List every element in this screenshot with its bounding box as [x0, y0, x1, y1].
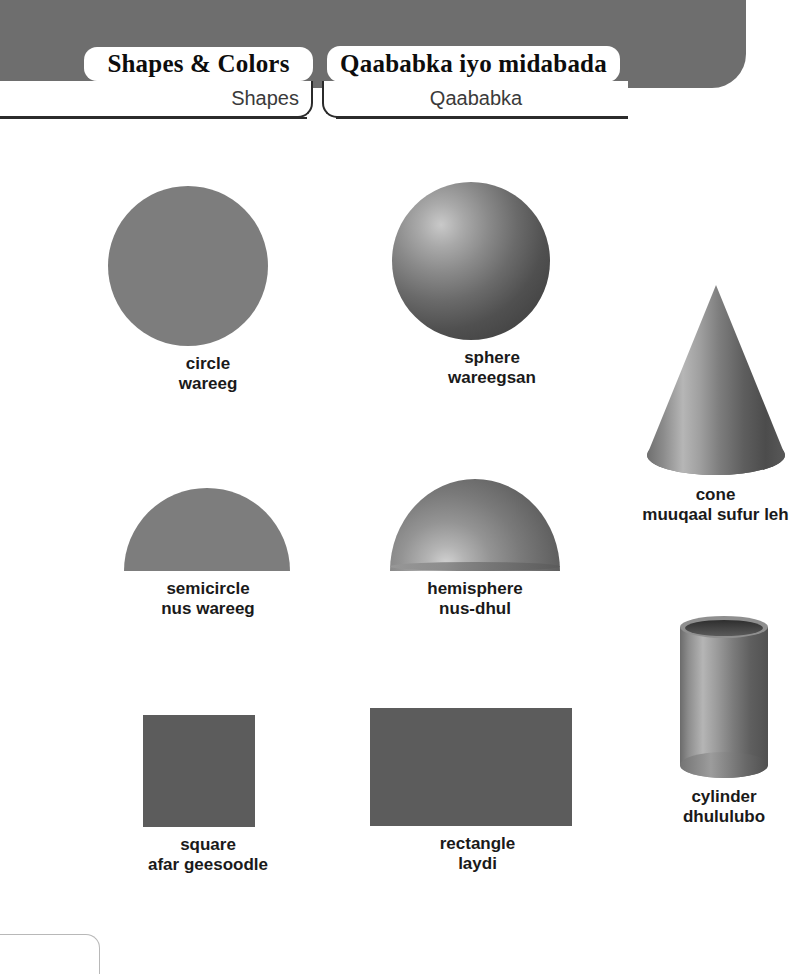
semicircle-label-so: nus wareeg [124, 599, 292, 619]
square-labels: square afar geesoodle [143, 835, 273, 875]
semicircle-shape [124, 488, 290, 571]
rectangle-shape [370, 708, 572, 826]
rectangle-labels: rectangle laydi [370, 834, 585, 874]
tab-bar: Shapes & Colors Shapes Qaababka iyo mida… [0, 0, 803, 130]
tab-qaababka-underline [336, 117, 628, 119]
square-shape [143, 715, 255, 827]
hemisphere-base-ellipse [390, 562, 560, 571]
rectangle-label-en: rectangle [370, 834, 585, 854]
cone-shape [645, 283, 787, 477]
shape-cell-cone: cone muuqaal sufur leh [628, 283, 803, 525]
cylinder-shape [678, 615, 770, 779]
hemisphere-art [390, 479, 560, 571]
hemisphere-label-en: hemisphere [382, 579, 568, 599]
semicircle-label-en: semicircle [124, 579, 292, 599]
square-label-en: square [143, 835, 273, 855]
cone-label-so: muuqaal sufur leh [628, 505, 803, 525]
cylinder-label-en: cylinder [644, 787, 803, 807]
square-art [143, 715, 273, 827]
hemisphere-labels: hemisphere nus-dhul [382, 579, 568, 619]
circle-label-so: wareeg [108, 374, 308, 394]
tab-qaababka-subtitle-box[interactable]: Qaababka [322, 81, 628, 118]
square-label-so: afar geesoodle [143, 855, 273, 875]
footer-tab-outline [0, 934, 100, 974]
circle-labels: circle wareeg [108, 354, 308, 394]
tab-shapes-colors-subtitle: Shapes [231, 87, 299, 110]
cone-labels: cone muuqaal sufur leh [628, 485, 803, 525]
tab-qaababka-title-box[interactable]: Qaababka iyo midabada [327, 46, 620, 82]
shape-cell-hemisphere: hemisphere nus-dhul [382, 479, 568, 619]
shape-cell-semicircle: semicircle nus wareeg [124, 488, 292, 619]
rectangle-art [370, 708, 585, 826]
circle-art [108, 186, 308, 346]
hemisphere-label-so: nus-dhul [382, 599, 568, 619]
sphere-label-so: wareegsan [392, 368, 592, 388]
sphere-art [392, 182, 592, 340]
tab-shapes-colors-title: Shapes & Colors [107, 50, 289, 78]
hemisphere-shape [390, 479, 560, 571]
sphere-label-en: sphere [392, 348, 592, 368]
rectangle-label-so: laydi [370, 854, 585, 874]
sphere-labels: sphere wareegsan [392, 348, 592, 388]
shape-cell-square: square afar geesoodle [143, 715, 273, 875]
shape-cell-cylinder: cylinder dhululubo [644, 615, 803, 827]
cylinder-label-so: dhululubo [644, 807, 803, 827]
semicircle-art [124, 488, 292, 571]
circle-shape [108, 186, 268, 346]
shape-cell-sphere: sphere wareegsan [392, 182, 592, 388]
cylinder-labels: cylinder dhululubo [644, 787, 803, 827]
tab-qaababka-subtitle: Qaababka [430, 87, 522, 110]
shape-cell-rectangle: rectangle laydi [370, 708, 585, 874]
cone-label-en: cone [628, 485, 803, 505]
sphere-shape [392, 182, 550, 340]
circle-label-en: circle [108, 354, 308, 374]
cylinder-art [678, 615, 770, 779]
tab-qaababka-title: Qaababka iyo midabada [340, 50, 607, 78]
semicircle-labels: semicircle nus wareeg [124, 579, 292, 619]
tab-shapes-colors-title-box[interactable]: Shapes & Colors [84, 47, 313, 81]
tab-shapes-colors-subtitle-box[interactable]: Shapes [0, 81, 313, 118]
tab-shapes-colors-underline [0, 117, 307, 119]
shape-cell-circle: circle wareeg [108, 186, 308, 394]
cone-art [645, 283, 787, 477]
